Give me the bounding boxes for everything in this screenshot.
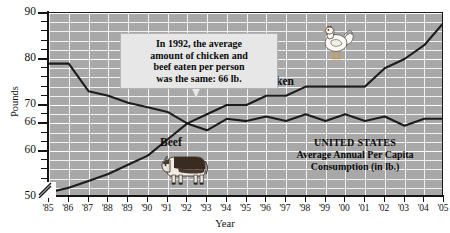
y-axis-tick bbox=[41, 49, 48, 50]
x-axis-tick bbox=[423, 197, 424, 202]
y-axis-tick bbox=[41, 40, 48, 41]
y-axis-tick bbox=[38, 12, 48, 14]
y-axis-tick bbox=[38, 150, 48, 152]
y-axis-tick-label: 50 bbox=[0, 189, 36, 201]
x-axis-tick bbox=[147, 197, 148, 202]
y-axis-tick bbox=[41, 30, 48, 31]
x-axis-tick-label: '05 bbox=[430, 203, 450, 213]
x-axis-tick bbox=[344, 197, 345, 202]
x-axis-tick bbox=[68, 197, 69, 202]
x-axis-tick bbox=[246, 197, 247, 202]
cow-icon bbox=[158, 148, 210, 186]
y-axis-tick-label: 90 bbox=[0, 5, 36, 17]
y-axis-tick bbox=[38, 58, 48, 60]
y-axis-tick bbox=[41, 178, 48, 179]
x-axis-tick bbox=[226, 197, 227, 202]
y-axis-tick bbox=[41, 21, 48, 22]
x-axis-tick bbox=[384, 197, 385, 202]
y-axis-tick bbox=[41, 95, 48, 96]
callout-line-4: was the same: 66 lb. bbox=[125, 73, 273, 85]
callout-line-3: beef eaten per person bbox=[125, 61, 273, 73]
y-axis-tick bbox=[38, 104, 48, 106]
x-axis-tick bbox=[443, 197, 444, 202]
y-axis-tick bbox=[41, 132, 48, 133]
callout-line-1: In 1992, the average bbox=[125, 38, 273, 50]
y-axis-tick-label: 60 bbox=[0, 143, 36, 155]
x-axis-tick bbox=[88, 197, 89, 202]
x-axis-tick bbox=[206, 197, 207, 202]
consumption-line-chart: 506066708090 '85'86'87'88'89'90'91'92'93… bbox=[0, 0, 450, 233]
y-axis-tick bbox=[41, 159, 48, 160]
corner-note-line-2: Average Annual Per Capita bbox=[275, 149, 435, 161]
x-axis-tick bbox=[265, 197, 266, 202]
corner-annotation: UNITED STATES Average Annual Per Capita … bbox=[275, 137, 435, 173]
series-label-beef: Beef bbox=[160, 136, 182, 148]
corner-note-line-1: UNITED STATES bbox=[275, 137, 435, 149]
y-axis-tick bbox=[38, 122, 48, 124]
y-axis-tick bbox=[41, 86, 48, 87]
x-axis-title: Year bbox=[0, 218, 450, 229]
x-axis-tick bbox=[127, 197, 128, 202]
callout-box: In 1992, the average amount of chicken a… bbox=[120, 33, 278, 89]
callout-line-2: amount of chicken and bbox=[125, 50, 273, 62]
x-axis-tick bbox=[285, 197, 286, 202]
rooster-icon bbox=[315, 23, 355, 65]
x-axis-tick bbox=[325, 197, 326, 202]
y-axis-break-icon bbox=[38, 182, 56, 198]
y-axis-tick bbox=[41, 67, 48, 68]
y-axis-title: Pounds bbox=[9, 72, 20, 132]
y-axis-tick bbox=[41, 141, 48, 142]
x-axis-tick bbox=[107, 197, 108, 202]
corner-note-line-3: Consumption (in lb.) bbox=[275, 161, 435, 173]
y-axis-tick bbox=[41, 168, 48, 169]
x-axis-tick bbox=[167, 197, 168, 202]
y-axis-tick-label: 80 bbox=[0, 51, 36, 63]
x-axis-tick bbox=[305, 197, 306, 202]
y-axis-tick bbox=[41, 76, 48, 77]
y-axis-tick bbox=[41, 113, 48, 114]
x-axis-tick bbox=[186, 197, 187, 202]
x-axis-tick bbox=[364, 197, 365, 202]
x-axis-tick bbox=[404, 197, 405, 202]
